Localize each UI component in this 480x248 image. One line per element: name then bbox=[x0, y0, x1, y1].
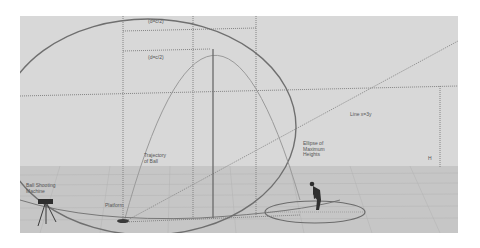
label-line-eq: Line x=3y bbox=[350, 112, 372, 118]
label-d-mid: (d=c/2) bbox=[148, 55, 164, 61]
label-d-top: (d=c/2) bbox=[148, 19, 164, 25]
label-ellipse: Ellipse of Maximum Heights bbox=[303, 141, 325, 158]
label-machine: Ball Shooting Machine bbox=[26, 183, 55, 194]
platform bbox=[117, 219, 129, 223]
label-platform: Platform bbox=[105, 203, 124, 209]
diagram-scene bbox=[0, 0, 480, 248]
label-trajectory: Trajectory of Ball bbox=[144, 153, 166, 164]
floor-plane bbox=[20, 166, 458, 233]
label-h-mark: H bbox=[428, 156, 432, 162]
sky-backdrop bbox=[20, 16, 458, 166]
